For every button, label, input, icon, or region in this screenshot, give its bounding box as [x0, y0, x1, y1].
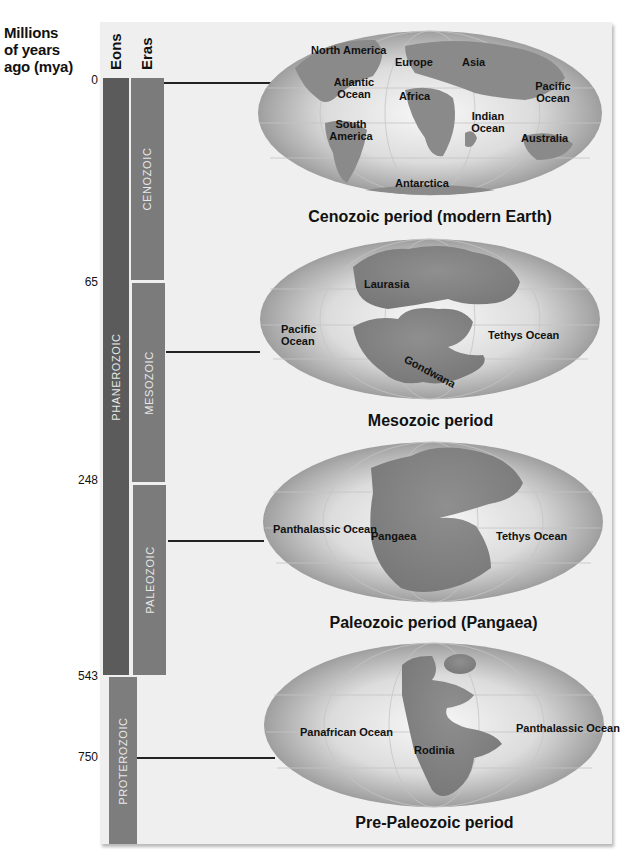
- caption-paleozoic: Paleozoic period (Pangaea): [261, 614, 606, 632]
- axis-title-line-2: of years: [4, 41, 73, 58]
- label-south-america: South America: [321, 118, 381, 142]
- tick-65: 65: [68, 275, 98, 289]
- label-australia: Australia: [521, 132, 568, 144]
- label-laurasia: Laurasia: [364, 278, 409, 290]
- era-bar-mesozoic: MESOZOIC: [132, 283, 165, 482]
- label-pangaea: Pangaea: [371, 530, 416, 542]
- era-bar-cenozoic: CENOZOIC: [131, 78, 164, 280]
- eon-label-proterozoic: PROTEROZOIC: [117, 717, 129, 804]
- tick-248: 248: [68, 473, 98, 487]
- label-panthalassic-ocean-pre-paleozoic: Panthalassic Ocean: [516, 722, 620, 734]
- label-pacific-ocean: Pacific Ocean: [528, 80, 578, 104]
- label-europe: Europe: [395, 56, 433, 68]
- era-bar-paleozoic: PALEOZOIC: [133, 485, 166, 675]
- connector-paleozoic: [168, 540, 264, 542]
- caption-cenozoic: Cenozoic period (modern Earth): [255, 208, 605, 226]
- tick-750: 750: [68, 750, 98, 764]
- globe-cenozoic: North America Europe Asia Atlantic Ocean…: [255, 28, 605, 198]
- label-panthalassic-ocean-paleozoic: Panthalassic Ocean: [273, 523, 377, 535]
- label-rodinia: Rodinia: [414, 744, 454, 756]
- caption-mesozoic: Mesozoic period: [258, 412, 603, 430]
- label-atlantic-ocean: Atlantic Ocean: [324, 76, 384, 100]
- globe-paleozoic: Panthalassic Ocean Pangaea Tethys Ocean: [261, 438, 606, 606]
- eon-bar-phanerozoic: PHANEROZOIC: [103, 78, 129, 675]
- axis-title-line-3: ago (mya): [4, 58, 73, 75]
- label-north-america: North America: [311, 44, 386, 56]
- axis-title-line-1: Millions: [4, 24, 73, 41]
- eras-column-header: Eras: [138, 37, 155, 70]
- era-label-paleozoic: PALEOZOIC: [144, 546, 156, 614]
- eons-column-header: Eons: [107, 33, 124, 70]
- era-label-cenozoic: CENOZOIC: [142, 148, 154, 211]
- eon-label-phanerozoic: PHANEROZOIC: [110, 333, 122, 420]
- globe-pre-paleozoic: Panafrican Ocean Panthalassic Ocean Rodi…: [262, 640, 607, 810]
- eon-bar-proterozoic: PROTEROZOIC: [109, 677, 137, 844]
- label-africa: Africa: [399, 90, 430, 102]
- connector-mesozoic: [166, 351, 260, 353]
- label-antarctica: Antarctica: [395, 177, 449, 189]
- label-indian-ocean: Indian Ocean: [463, 110, 513, 134]
- globe-mesozoic: Laurasia Pacific Ocean Tethys Ocean Gond…: [258, 237, 603, 402]
- label-tethys-ocean-mesozoic: Tethys Ocean: [488, 329, 559, 341]
- caption-pre-paleozoic: Pre-Paleozoic period: [262, 814, 607, 832]
- label-panafrican-ocean: Panafrican Ocean: [300, 726, 393, 738]
- tick-543: 543: [68, 669, 98, 683]
- connector-proterozoic: [137, 757, 275, 759]
- label-pacific-ocean-mesozoic: Pacific Ocean: [281, 323, 331, 347]
- era-label-mesozoic: MESOZOIC: [143, 351, 155, 414]
- label-tethys-ocean-paleozoic: Tethys Ocean: [496, 530, 567, 542]
- tick-0: 0: [68, 73, 98, 87]
- axis-title: Millions of years ago (mya): [4, 24, 73, 75]
- label-asia: Asia: [462, 56, 485, 68]
